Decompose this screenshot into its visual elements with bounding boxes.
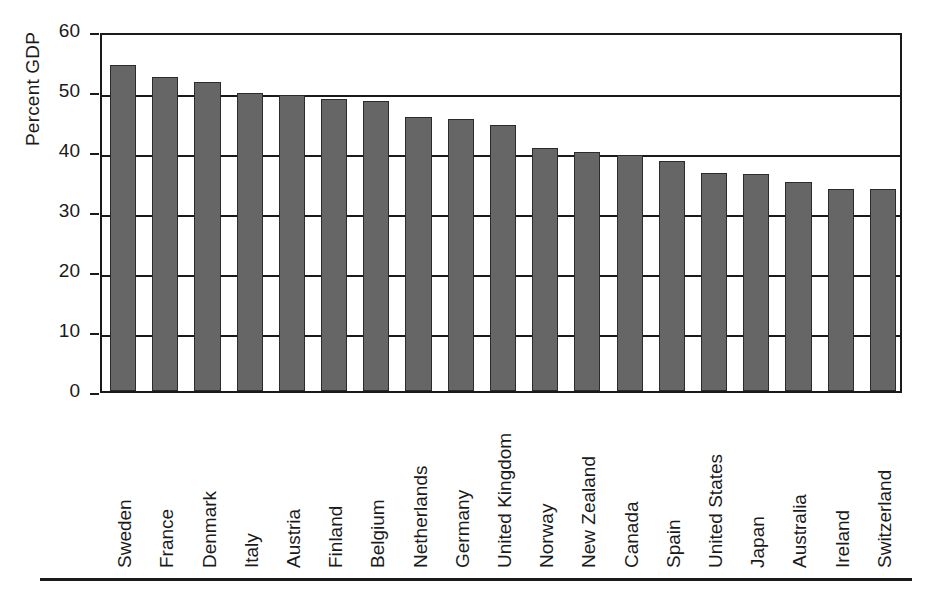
y-tick-mark — [90, 213, 99, 215]
bar — [659, 161, 685, 391]
bar — [574, 152, 600, 391]
bottom-divider — [40, 578, 912, 581]
bar — [110, 65, 136, 391]
y-tick-label: 50 — [14, 80, 80, 102]
bar — [785, 182, 811, 391]
x-tick-label: New Zealand — [578, 393, 600, 568]
bar — [828, 189, 854, 391]
y-tick-mark — [90, 153, 99, 155]
x-tick-label: United Kingdom — [494, 393, 516, 568]
y-tick-mark — [90, 93, 99, 95]
bar — [405, 117, 431, 391]
x-tick-label: Japan — [747, 393, 769, 568]
x-tick-label: France — [156, 393, 178, 568]
y-tick-label: 60 — [14, 20, 80, 42]
x-tick-label: United States — [705, 393, 727, 568]
bar — [870, 189, 896, 391]
x-axis-tick-labels: SwedenFranceDenmarkItalyAustriaFinlandBe… — [100, 393, 902, 578]
bar — [617, 155, 643, 391]
x-tick-label: Austria — [283, 393, 305, 568]
bar — [448, 119, 474, 391]
x-tick-label: Italy — [241, 393, 263, 568]
y-tick-mark — [90, 273, 99, 275]
bar — [194, 82, 220, 391]
bar — [490, 125, 516, 391]
x-tick-label: Ireland — [832, 393, 854, 568]
x-tick-label: Belgium — [367, 393, 389, 568]
x-tick-label: Sweden — [114, 393, 136, 568]
y-tick-mark — [90, 393, 99, 395]
x-tick-label: Denmark — [199, 393, 221, 568]
x-tick-label: Australia — [789, 393, 811, 568]
y-tick-label: 40 — [14, 140, 80, 162]
bar — [701, 173, 727, 391]
bar — [237, 93, 263, 391]
bar — [532, 148, 558, 391]
bar-series — [102, 35, 900, 391]
x-tick-label: Norway — [536, 393, 558, 568]
bar — [279, 95, 305, 391]
x-tick-label: Netherlands — [410, 393, 432, 568]
x-tick-label: Switzerland — [874, 393, 896, 568]
x-tick-label: Canada — [621, 393, 643, 568]
y-tick-label: 30 — [14, 200, 80, 222]
y-tick-label: 0 — [14, 380, 80, 402]
bar — [321, 99, 347, 391]
y-tick-mark — [90, 333, 99, 335]
plot-area — [100, 33, 902, 393]
figure-root: Percent GDP 0102030405060 SwedenFranceDe… — [0, 0, 942, 612]
x-tick-label: Finland — [325, 393, 347, 568]
x-tick-label: Spain — [663, 393, 685, 568]
y-tick-label: 10 — [14, 320, 80, 342]
bar — [743, 174, 769, 391]
y-tick-label: 20 — [14, 260, 80, 282]
y-tick-mark — [90, 33, 99, 35]
bar — [152, 77, 178, 391]
bar — [363, 101, 389, 391]
x-tick-label: Germany — [452, 393, 474, 568]
